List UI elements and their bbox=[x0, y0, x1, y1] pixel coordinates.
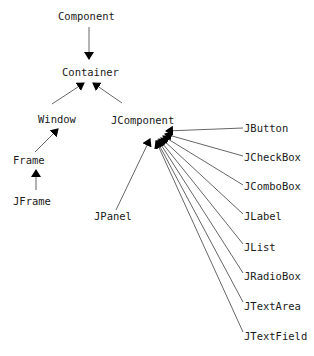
node-jlabel: JLabel bbox=[244, 210, 282, 223]
edge-jpanel-jcomponent bbox=[116, 139, 150, 210]
edge-jtextfield-jcomponent bbox=[156, 141, 243, 332]
node-jradiobox: JRadioBox bbox=[244, 270, 301, 283]
edge-jcomponent-container bbox=[93, 83, 122, 103]
edge-jradiobox-jcomponent bbox=[158, 140, 243, 273]
node-jcomponent: JComponent bbox=[111, 114, 174, 127]
node-jpanel: JPanel bbox=[94, 210, 132, 223]
node-jcheckbox: JCheckBox bbox=[244, 151, 301, 164]
edge-window-container bbox=[52, 83, 84, 104]
edge-jlist-jcomponent bbox=[159, 139, 243, 244]
edge-jcombobox-jcomponent bbox=[163, 136, 243, 185]
node-jtextfield: JTextField bbox=[244, 330, 307, 343]
edge-jtextarea-jcomponent bbox=[157, 141, 243, 302]
edge-jlabel-jcomponent bbox=[161, 138, 243, 214]
node-jlist: JList bbox=[244, 241, 276, 254]
node-jtextarea: JTextArea bbox=[244, 300, 301, 313]
node-container: Container bbox=[62, 66, 119, 79]
node-component: Component bbox=[58, 10, 115, 23]
node-jcombobox: JComboBox bbox=[244, 180, 301, 193]
node-frame: Frame bbox=[13, 154, 45, 167]
edge-frame-window bbox=[35, 129, 58, 152]
node-jbutton: JButton bbox=[244, 122, 288, 135]
node-window: Window bbox=[38, 113, 76, 126]
node-jframe: JFrame bbox=[13, 195, 51, 208]
edge-jbutton-jcomponent bbox=[166, 128, 243, 131]
